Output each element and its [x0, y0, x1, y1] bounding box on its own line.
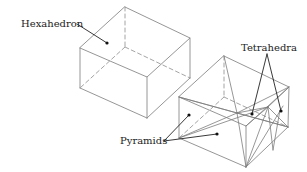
tetrahedra-leaders: [250, 54, 282, 116]
hexahedron-decomposition-diagram: Hexahedron Tetrahedra Pyramids: [0, 0, 307, 172]
hexahedron-shape: [80, 7, 190, 118]
pyramids-label: Pyramids: [120, 136, 167, 146]
tetrahedra-label: Tetrahedra: [241, 43, 297, 53]
decomposed-hexahedron-shape: [179, 56, 289, 167]
hexahedron-label: Hexahedron: [21, 19, 83, 29]
